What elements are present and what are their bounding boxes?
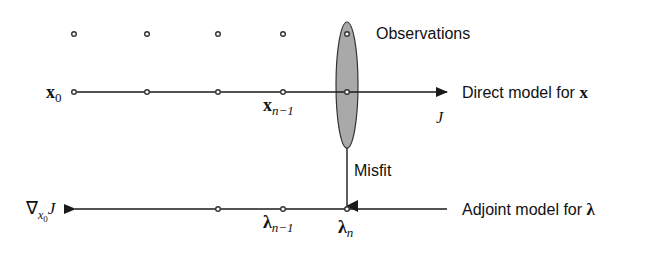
lambda-n-minus-1-label: λn−1 (263, 212, 294, 235)
gradient-label: ∇x0J (25, 198, 57, 224)
adjoint-model-label: Adjoint model for λ (462, 200, 596, 219)
cost-function-label: J (436, 109, 444, 126)
misfit-label: Misfit (354, 162, 392, 179)
observation-points (72, 32, 350, 37)
observation-window-ellipse (336, 22, 358, 148)
x0-label: x0 (46, 82, 62, 105)
observations-label: Observations (376, 25, 470, 42)
xn-minus-1-label: xn−1 (263, 95, 294, 118)
data-assimilation-diagram: Observations Direct model for x Adjoint … (0, 0, 665, 257)
lambda-n-label: λn (338, 217, 353, 240)
direct-model-label: Direct model for x (462, 83, 588, 102)
